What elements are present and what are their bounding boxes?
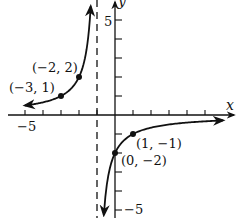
y-tick-label-neg5: −5 <box>124 202 143 217</box>
data-point <box>58 93 64 99</box>
x-tick-label-neg5: −5 <box>17 119 36 134</box>
point-label-neg3-1: (−3, 1) <box>9 80 55 95</box>
x-axis-label: x <box>226 97 234 113</box>
data-point <box>112 150 118 156</box>
graph: x y −5 5 −5 (−3, 1) (−2, 2) (0, −2) (1, … <box>0 0 239 218</box>
y-tick-label-5: 5 <box>104 14 112 29</box>
y-axis-label: y <box>117 0 127 9</box>
point-label-0-neg2: (0, −2) <box>121 153 167 168</box>
point-label-1-neg1: (1, −1) <box>136 136 182 151</box>
point-label-neg2-2: (−2, 2) <box>32 60 78 75</box>
